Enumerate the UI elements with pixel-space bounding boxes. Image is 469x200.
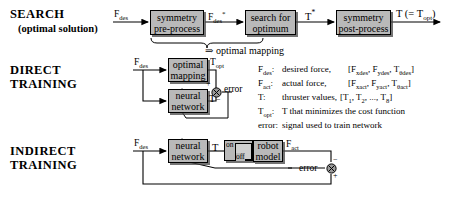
signal-fdes-indirect: Fdes — [134, 138, 148, 152]
legend-row: Topt: T that minimizes the cost function — [258, 106, 414, 120]
row-subtitle-indirect: TRAINING — [10, 159, 77, 172]
legend-row: Fdes: desired force, [Fxdes, Fydes, Tθde… — [258, 64, 414, 78]
box-neural-network-direct-line1: neural — [176, 90, 201, 101]
box-robot-model-line2: model — [256, 151, 281, 162]
box-search-for-optimum: search for optimum — [245, 10, 296, 35]
diagram-canvas: SEARCH (optimal solution) Fdes symmetry … — [0, 0, 469, 200]
sum-sign-plus-indirect: + — [333, 172, 338, 180]
legend-table: Fdes: desired force, [Fxdes, Fydes, Tθde… — [258, 64, 414, 131]
legend-key: Fact: — [258, 78, 282, 92]
note-optimal-mapping: ⇒ optimal mapping — [205, 45, 284, 56]
box-symmetry-preprocess-line1: symmetry — [157, 12, 197, 23]
box-optimal-mapping-line2: mapping — [171, 70, 206, 81]
label-error-direct: error — [224, 84, 242, 94]
row-title-search: SEARCH — [10, 8, 65, 21]
signal-t-star: T* — [305, 8, 315, 22]
row-subtitle-direct: TRAINING — [10, 78, 77, 91]
legend-body: Fdes: desired force, [Fxdes, Fydes, Tθde… — [258, 64, 414, 131]
box-symmetry-postprocess: symmetry post-process — [336, 10, 391, 35]
signal-fact: Fact — [286, 139, 299, 153]
legend-key: Topt: — [258, 106, 282, 120]
sum-sign-plus-direct: + — [206, 80, 211, 88]
signal-t-equals-topt: T (= Topt) — [396, 8, 436, 22]
signal-fdes-star: Fdes* — [208, 9, 225, 26]
switch-label-off: off — [236, 153, 245, 161]
box-neural-network-direct-line2: network — [172, 101, 205, 112]
legend-extra: [T1, T2, ..., T8] — [337, 92, 414, 106]
box-symmetry-postprocess-line1: symmetry — [344, 12, 384, 23]
legend-row: Fact: actual force, [Fxact, Fyact, Tθact… — [258, 78, 414, 92]
box-search-for-optimum-line1: search for — [251, 12, 291, 23]
box-symmetry-preprocess-line2: pre-process — [154, 23, 200, 34]
legend-extra: [Fxact, Fyact, Tθact] — [337, 78, 414, 92]
signal-t-indirect: T — [212, 142, 218, 153]
legend-key: T: — [258, 92, 282, 106]
row-title-direct: DIRECT — [10, 64, 61, 77]
box-neural-network-direct: neural network — [168, 89, 208, 113]
switch-on-off[interactable]: on off — [224, 140, 253, 161]
box-optimal-mapping: optimal mapping — [168, 58, 208, 82]
legend-key: error: — [258, 120, 282, 131]
legend-desc: actual force, — [282, 78, 337, 92]
box-symmetry-preprocess: symmetry pre-process — [150, 10, 204, 35]
sum-sign-minus-indirect: − — [333, 156, 338, 164]
legend-desc: signal used to train network — [282, 120, 414, 131]
sum-sign-minus-direct: − — [216, 96, 221, 104]
box-neural-network-indirect-line1: neural — [176, 140, 201, 151]
box-neural-network-indirect-line2: network — [172, 151, 205, 162]
box-symmetry-postprocess-line2: post-process — [339, 23, 389, 34]
legend-desc: T that minimizes the cost function — [282, 106, 414, 120]
legend-row: T: thruster values, [T1, T2, ..., T8] — [258, 92, 414, 106]
row-title-indirect: INDIRECT — [10, 145, 76, 158]
box-robot-model-line1: robot — [257, 140, 278, 151]
label-error-indirect: error — [299, 163, 317, 173]
box-robot-model: robot model — [253, 140, 283, 162]
legend-desc: thruster values, — [282, 92, 337, 106]
signal-topt-direct: Topt — [210, 57, 224, 71]
signal-fdes-direct: Fdes — [134, 57, 148, 71]
row-subtitle-search: (optimal solution) — [18, 23, 98, 34]
legend-extra: [Fxdes, Fydes, Tθdes] — [337, 64, 414, 78]
legend: Fdes: desired force, [Fxdes, Fydes, Tθde… — [258, 64, 414, 131]
box-optimal-mapping-line1: optimal — [173, 59, 204, 70]
legend-key: Fdes: — [258, 64, 282, 78]
legend-desc: desired force, — [282, 64, 337, 78]
legend-row: error: signal used to train network — [258, 120, 414, 131]
switch-label-on: on — [226, 141, 234, 149]
box-search-for-optimum-line2: optimum — [252, 23, 288, 34]
box-neural-network-indirect: neural network — [168, 139, 208, 163]
signal-fdes-search: Fdes — [114, 9, 128, 23]
